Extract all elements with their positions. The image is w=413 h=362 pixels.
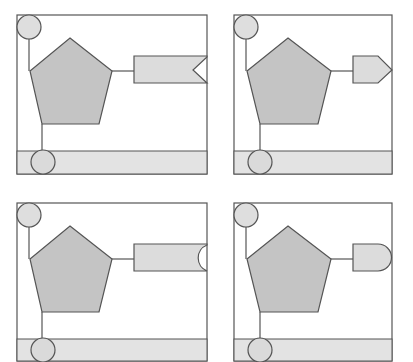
top-circle-node (17, 15, 41, 39)
bottom-circle-node (31, 150, 55, 174)
bottom-circle-node (248, 338, 272, 362)
bottom-circle-node (248, 150, 272, 174)
bottom-circle-node (31, 338, 55, 362)
concave-semicircle-shape (134, 244, 207, 271)
diagram-canvas (0, 0, 413, 362)
panel-top-right (234, 15, 392, 174)
convex-semicircle-shape (353, 244, 392, 271)
panel-bottom-left (17, 203, 207, 362)
top-circle-node (234, 203, 258, 227)
top-circle-node (234, 15, 258, 39)
top-circle-node (17, 203, 41, 227)
panel-bottom-right (234, 203, 392, 362)
panel-top-left (17, 15, 207, 174)
